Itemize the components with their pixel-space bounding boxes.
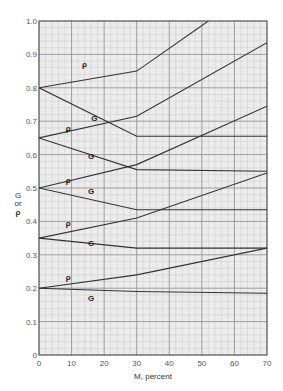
x-tick-label: 20 [100, 359, 109, 368]
x-tick-label: 40 [165, 359, 174, 368]
y-tick-label: 0.6 [26, 151, 38, 160]
x-tick-label: 70 [263, 359, 272, 368]
y-tick-label: 0.4 [26, 217, 38, 226]
g-label-4: G [88, 239, 94, 248]
rho-label-1: ρ [82, 60, 87, 69]
y-tick-label: 0.5 [26, 184, 38, 193]
g-label-1: G [91, 114, 97, 123]
y-tick-label: 0.9 [26, 50, 38, 59]
x-tick-label: 60 [230, 359, 239, 368]
y-tick-label: 1.0 [26, 17, 38, 26]
y-tick-label: 0.1 [26, 318, 38, 327]
y-axis-label-line: ρ [16, 208, 21, 217]
y-axis-label-line: or [14, 199, 21, 208]
x-tick-label: 50 [197, 359, 206, 368]
y-axis-ticks: 00.10.20.30.40.50.60.70.80.91.0 [26, 17, 38, 360]
x-tick-label: 10 [67, 359, 76, 368]
x-axis-label: M, percent [134, 372, 173, 381]
g-label-5: G [88, 294, 94, 303]
x-tick-label: 0 [37, 359, 42, 368]
y-tick-label: 0.8 [26, 84, 38, 93]
rho-label-3: ρ [66, 176, 71, 185]
y-tick-label: 0.2 [26, 284, 38, 293]
g-label-3: G [88, 187, 94, 196]
x-axis-ticks: 010203040506070 [37, 359, 272, 368]
y-tick-label: 0.7 [26, 117, 38, 126]
x-tick-label: 30 [132, 359, 141, 368]
rho-label-2: ρ [66, 124, 71, 133]
y-axis-label: Gorρ [14, 191, 21, 217]
rho-label-5: ρ [66, 273, 71, 282]
y-tick-label: 0.3 [26, 251, 38, 260]
rho-label-4: ρ [66, 219, 71, 228]
g-label-2: G [88, 152, 94, 161]
chart: ρGρGρGρGρG 00.10.20.30.40.50.60.70.80.91… [0, 0, 283, 391]
